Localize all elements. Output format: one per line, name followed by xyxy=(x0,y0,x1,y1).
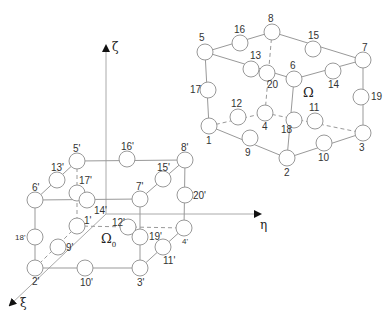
node-label-1p: 1' xyxy=(84,216,91,226)
node-label-17p: 17' xyxy=(79,176,92,186)
node-label-12p: 12' xyxy=(112,218,125,228)
node-label-13: 13 xyxy=(250,51,261,61)
xi-axis-label: ξ xyxy=(20,298,27,308)
node-label-9p: 9' xyxy=(66,243,73,253)
node-label-2p: 2' xyxy=(32,277,39,287)
node-label-10p: 10' xyxy=(80,278,93,288)
node-label-14p: 14' xyxy=(94,206,107,216)
node-label-8: 8 xyxy=(268,14,274,24)
node-label-1: 1 xyxy=(206,136,212,146)
node-label-20: 20 xyxy=(267,80,278,90)
node-label-4p: 4' xyxy=(182,237,188,247)
diagram-graphics xyxy=(0,0,391,322)
xi-axis xyxy=(10,214,106,305)
node-label-18: 18 xyxy=(281,125,292,135)
node-label-16: 16 xyxy=(234,25,245,35)
physical-domain-label: Ω xyxy=(303,88,314,98)
node-label-2: 2 xyxy=(284,168,290,178)
node-label-10: 10 xyxy=(318,153,329,163)
node-label-7p: 7' xyxy=(136,182,143,192)
node-label-11: 11 xyxy=(309,103,319,113)
node-label-3p: 3' xyxy=(137,278,144,288)
node-label-6: 6 xyxy=(290,61,296,71)
node-label-18p: 18' xyxy=(15,233,25,243)
node-label-13p: 13' xyxy=(51,163,64,173)
node-label-7: 7 xyxy=(362,43,368,53)
node-label-15: 15 xyxy=(308,31,319,41)
node-label-9: 9 xyxy=(245,148,251,158)
node-label-11p: 11' xyxy=(163,256,175,266)
node-label-5: 5 xyxy=(199,33,205,43)
physical-element-edges xyxy=(205,32,363,158)
node-label-5p: 5' xyxy=(73,144,80,154)
zeta-axis-label: ζ xyxy=(112,42,119,52)
node-label-19: 19 xyxy=(371,92,382,102)
node-label-12: 12 xyxy=(231,99,242,109)
node-label-19p: 19' xyxy=(149,232,162,242)
physical-element-nodes xyxy=(197,24,371,166)
node-label-14: 14 xyxy=(328,80,339,90)
node-label-6p: 6' xyxy=(32,183,39,193)
node-label-4: 4 xyxy=(262,122,268,132)
node-label-15p: 15' xyxy=(157,163,170,173)
node-label-20p: 20' xyxy=(193,191,206,201)
node-label-16p: 16' xyxy=(121,142,134,152)
reference-domain-label: Ω0 xyxy=(101,234,116,250)
eta-axis-label: η xyxy=(260,220,267,230)
node-label-3: 3 xyxy=(359,143,365,153)
element-mapping-diagram: ζ η ξ Ω Ω0 5 16 8 15 7 13 6 20 14 17 19 … xyxy=(0,0,391,322)
node-label-8p: 8' xyxy=(181,143,188,153)
node-label-17: 17 xyxy=(190,85,201,95)
